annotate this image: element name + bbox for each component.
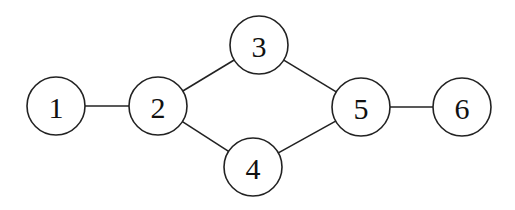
graph-diagram: 123456: [0, 0, 515, 210]
node-label: 5: [354, 92, 369, 125]
edge-3-5: [284, 60, 336, 92]
node-label: 3: [252, 30, 267, 63]
edge-2-3: [183, 60, 234, 91]
node-label: 4: [246, 152, 261, 185]
node-label: 2: [151, 91, 166, 124]
node-4: 4: [224, 138, 282, 196]
node-label: 1: [49, 91, 64, 124]
edge-2-4: [182, 122, 228, 152]
node-5: 5: [332, 78, 390, 136]
edge-4-5: [278, 121, 335, 153]
node-1: 1: [27, 77, 85, 135]
node-3: 3: [230, 16, 288, 74]
node-label: 6: [455, 92, 470, 125]
node-6: 6: [433, 78, 491, 136]
node-2: 2: [129, 77, 187, 135]
